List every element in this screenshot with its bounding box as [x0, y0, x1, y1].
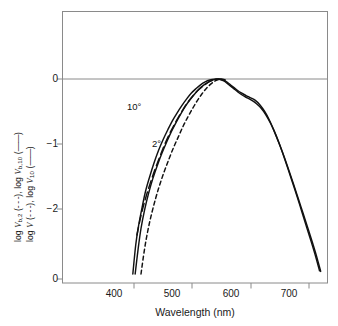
x-tick-label-600: 600 [211, 289, 251, 299]
chart-figure: log Vb,2 (- - -), log Vb,10 (——) log V (… [0, 0, 338, 326]
x-tick-label-500: 500 [152, 289, 192, 299]
x-tick-label-group: 400 500 600 700 [0, 0, 338, 326]
x-tick-label-400: 400 [94, 289, 134, 299]
x-axis-label: Wavelength (nm) [62, 306, 328, 318]
annotation-10-degree: 10° [127, 101, 141, 112]
x-tick-label-700: 700 [269, 289, 309, 299]
annotation-2-degree: 2° [152, 138, 161, 149]
